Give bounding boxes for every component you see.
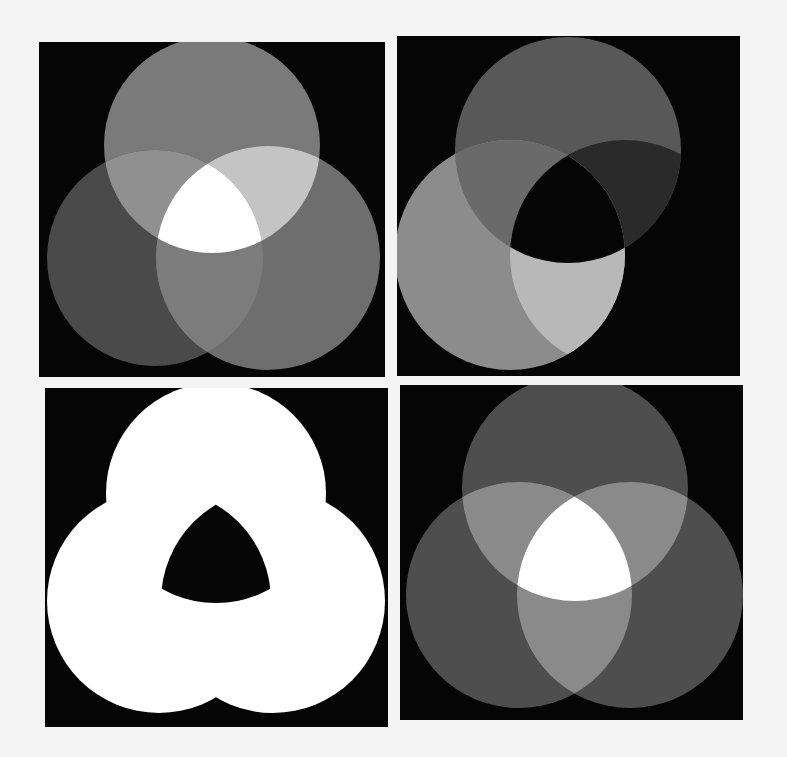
venn-diagram-additive (39, 42, 385, 377)
venn-diagram-symmetric (400, 385, 743, 720)
venn-panel-top-right (397, 36, 740, 376)
venn-diagram-two-visible (397, 36, 740, 376)
venn-panel-top-left (39, 42, 385, 377)
venn-panel-bottom-left (45, 388, 388, 727)
venn-panel-bottom-right (400, 385, 743, 720)
venn-diagram-union (45, 388, 388, 727)
